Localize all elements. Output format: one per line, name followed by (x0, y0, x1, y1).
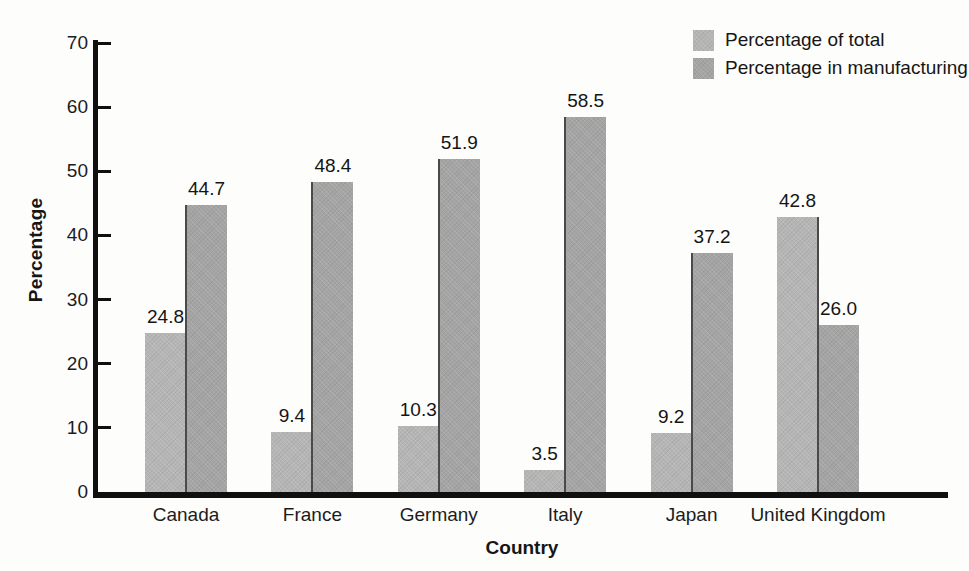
y-tick-label-60: 60 (38, 96, 88, 118)
legend-swatch-percentage-of-total (693, 30, 714, 51)
y-tick-60 (98, 106, 111, 109)
y-tick-30 (98, 298, 111, 301)
y-tick-label-0: 0 (38, 481, 88, 503)
category-label-united-kingdom: United Kingdom (738, 504, 898, 526)
value-label-france-percentage-in-manufacturing: 48.4 (292, 155, 373, 176)
value-label-germany-percentage-in-manufacturing: 51.9 (419, 132, 500, 153)
y-tick-label-70: 70 (38, 32, 88, 54)
bar-japan-percentage-of-total (651, 433, 692, 492)
bar-france-percentage-in-manufacturing (312, 182, 353, 492)
legend-label-percentage-of-total: Percentage of total (725, 29, 885, 51)
bar-germany-percentage-in-manufacturing (439, 159, 480, 492)
value-label-japan-percentage-in-manufacturing: 37.2 (672, 226, 753, 247)
x-axis-title: Country (452, 537, 592, 559)
y-tick-label-20: 20 (38, 353, 88, 375)
y-tick-label-40: 40 (38, 224, 88, 246)
y-axis-title: Percentage (25, 198, 47, 302)
y-tick-70 (98, 42, 111, 45)
y-tick-10 (98, 426, 111, 429)
y-tick-label-50: 50 (38, 160, 88, 182)
bar-united-kingdom-percentage-of-total (777, 217, 818, 492)
value-label-united-kingdom-percentage-in-manufacturing: 26.0 (798, 298, 879, 319)
bar-italy-percentage-in-manufacturing (565, 117, 606, 492)
value-label-canada-percentage-in-manufacturing: 44.7 (166, 178, 247, 199)
bar-divider-italy (564, 117, 566, 492)
bar-canada-percentage-of-total (145, 333, 186, 492)
legend-item-percentage-in-manufacturing: Percentage in manufacturing (693, 57, 968, 79)
y-tick-20 (98, 362, 111, 365)
legend: Percentage of totalPercentage in manufac… (693, 29, 968, 79)
bar-canada-percentage-in-manufacturing (186, 205, 227, 492)
bar-united-kingdom-percentage-in-manufacturing (818, 325, 859, 492)
y-tick-40 (98, 234, 111, 237)
y-tick-label-10: 10 (38, 417, 88, 439)
value-label-united-kingdom-percentage-of-total: 42.8 (757, 190, 838, 211)
bar-chart-figure: Percentage 01020304050607024.844.7Canada… (0, 0, 969, 571)
bar-italy-percentage-of-total (524, 470, 565, 492)
y-tick-50 (98, 170, 111, 173)
legend-item-percentage-of-total: Percentage of total (693, 29, 968, 51)
bar-divider-france (311, 182, 313, 492)
y-tick-label-30: 30 (38, 289, 88, 311)
bar-germany-percentage-of-total (398, 426, 439, 492)
bar-japan-percentage-in-manufacturing (692, 253, 733, 492)
bar-divider-japan (691, 253, 693, 492)
bar-divider-canada (185, 205, 187, 492)
x-axis-line (93, 492, 948, 498)
value-label-italy-percentage-in-manufacturing: 58.5 (545, 90, 626, 111)
legend-swatch-percentage-in-manufacturing (693, 58, 714, 79)
legend-label-percentage-in-manufacturing: Percentage in manufacturing (725, 57, 968, 79)
bar-france-percentage-of-total (271, 432, 312, 492)
bar-divider-united-kingdom (817, 217, 819, 492)
bar-divider-germany (438, 159, 440, 492)
